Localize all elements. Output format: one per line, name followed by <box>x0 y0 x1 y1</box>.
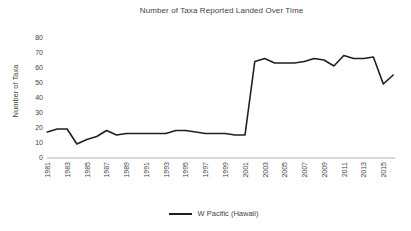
x-tick-label: 2005 <box>281 162 288 178</box>
x-tick-label: 2001 <box>242 162 249 178</box>
y-tick-label: 0 <box>39 154 43 161</box>
x-tick-label: 2011 <box>341 162 348 177</box>
x-tick-label: 1985 <box>84 162 91 178</box>
x-tick-label: 2015 <box>380 162 387 178</box>
y-tick-label: 80 <box>35 34 43 41</box>
x-tick-label: 1997 <box>202 162 209 178</box>
y-tick-label: 20 <box>35 124 43 131</box>
x-tick-label: 2007 <box>301 162 308 178</box>
x-tick-label: 1991 <box>143 162 150 178</box>
y-tick-label: 50 <box>35 79 43 86</box>
y-tick-label: 40 <box>35 94 43 101</box>
y-tick-label: 60 <box>35 64 43 71</box>
x-tick-label: 1993 <box>163 162 170 178</box>
y-tick-label: 70 <box>35 49 43 56</box>
x-tick-label: 1989 <box>123 162 130 178</box>
legend-line-swatch <box>169 213 192 215</box>
plot-area: 0102030405060708019811983198519871989199… <box>0 0 411 205</box>
series-line <box>47 56 393 145</box>
legend: W Pacific (Hawaii) <box>0 209 411 218</box>
x-tick-label: 1987 <box>103 162 110 178</box>
y-tick-label: 30 <box>35 109 43 116</box>
y-tick-label: 10 <box>35 139 43 146</box>
legend-label: W Pacific (Hawaii) <box>198 209 259 218</box>
x-tick-label: 1981 <box>44 162 51 178</box>
x-tick-label: 1983 <box>64 162 71 178</box>
x-tick-label: 2003 <box>262 162 269 178</box>
x-tick-label: 2009 <box>321 162 328 178</box>
x-tick-label: 2013 <box>360 162 367 178</box>
x-tick-label: 1999 <box>222 162 229 178</box>
x-tick-label: 1995 <box>182 162 189 178</box>
